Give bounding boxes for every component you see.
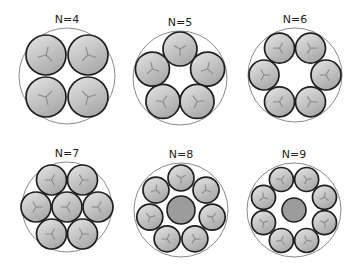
cylinder-cross-section [191,52,225,86]
cylinder-cross-section [154,226,180,252]
panel-n9: N=9 [247,148,341,257]
cylinder-cross-section [68,35,108,75]
panel-label: N=4 [55,13,79,26]
cylinder-cross-section [249,60,279,90]
cylinder-cross-section [312,185,336,209]
panel-n4: N=4 [19,13,115,124]
cylinder-cross-section [182,226,208,252]
spoke-icon [324,223,325,228]
panel-label: N=5 [168,16,192,29]
cylinder-cross-section [252,185,276,209]
cylinder-cross-section [26,77,66,117]
cylinder-cross-section [83,192,113,222]
cylinder-cross-section [146,84,180,118]
cylinder-cross-section [143,177,169,203]
cylinder-cross-section [311,60,341,90]
circle-packing-figure: N=4N=5N=6N=7N=8N=9 [0,0,358,270]
panel-n7: N=7 [21,147,113,252]
panel-label: N=8 [169,148,193,161]
panel-label: N=9 [282,148,306,161]
panel-n5: N=5 [133,16,227,125]
cylinder-cross-section [137,204,163,230]
cylinder-cross-section [312,211,336,235]
cylinder-cross-section [199,204,225,230]
spoke-icon [156,101,163,102]
panel-label: N=7 [55,147,79,160]
cylinder-cross-section [21,192,51,222]
cylinder-cross-section [68,165,98,195]
cylinder-cross-section [295,228,319,252]
cylinder-cross-section [295,168,319,192]
panel-n8: N=8 [134,148,228,257]
cylinder-cross-section [180,84,214,118]
cylinder-cross-section [265,33,295,63]
cylinder-cross-section [265,87,295,117]
core-cylinder [282,198,306,222]
cylinder-cross-section [135,52,169,86]
cylinder-cross-section [269,228,293,252]
cylinder-cross-section [68,219,98,249]
cylinder-cross-section [269,168,293,192]
cylinder-cross-section [296,33,326,63]
cylinder-cross-section [296,87,326,117]
spoke-icon [197,101,204,102]
cylinder-cross-section [52,192,82,222]
cylinder-cross-section [37,165,67,195]
panel-label: N=6 [283,13,307,26]
cylinder-cross-section [252,211,276,235]
spoke-icon [324,192,325,197]
spoke-icon [276,240,281,241]
spoke-icon [307,179,312,180]
core-cylinder [167,196,195,224]
spoke-icon [276,179,281,180]
spoke-icon [263,192,264,197]
spoke-icon [263,223,264,228]
cylinder-cross-section [26,35,66,75]
cylinder-cross-section [68,77,108,117]
cylinder-cross-section [193,177,219,203]
spoke-icon [307,240,312,241]
cylinder-cross-section [37,219,67,249]
panel-n6: N=6 [248,13,342,122]
packing-panels: N=4N=5N=6N=7N=8N=9 [19,13,342,257]
cylinder-cross-section [168,165,194,191]
